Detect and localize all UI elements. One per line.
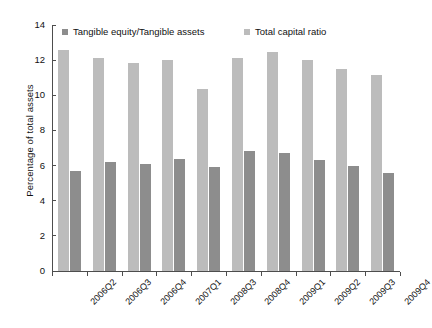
x-tick-mark [400,272,401,276]
bar [244,151,255,271]
x-tick-mark [365,272,366,276]
x-tick-mark [191,272,192,276]
y-tick-label: 10 [0,88,45,101]
x-tick-label: 2008Q4 [263,277,293,307]
bar [267,52,278,271]
y-tick-mark [52,130,56,131]
x-tick-mark [296,272,297,276]
x-tick-label: 2006Q3 [124,277,154,307]
bar [70,171,81,271]
bar [279,153,290,271]
bar [371,75,382,271]
x-tick-mark [156,272,157,276]
y-tick-label: 12 [0,53,45,66]
bar [105,162,116,271]
y-tick-mark [52,200,56,201]
x-tick-mark [330,272,331,276]
x-tick-label: 2009Q2 [332,277,362,307]
y-tick-label: 14 [0,18,45,31]
x-tick-label: 2009Q4 [402,277,432,307]
y-tick-mark [52,165,56,166]
bar [314,160,325,271]
bar [383,173,394,271]
x-tick-label: 2006Q2 [89,277,119,307]
x-tick-label: 2007Q1 [193,277,223,307]
y-tick-label: 0 [0,264,45,277]
x-tick-mark [87,272,88,276]
bar [128,63,139,271]
y-tick-mark [52,95,56,96]
y-tick-mark [52,235,56,236]
bar [93,58,104,271]
bar [162,60,173,271]
bar [209,167,220,271]
bar [140,164,151,271]
x-tick-mark [52,272,53,276]
y-tick-label: 2 [0,229,45,242]
y-tick-label: 4 [0,194,45,207]
bar [174,159,185,271]
x-tick-label: 2009Q1 [298,277,328,307]
x-tick-mark [261,272,262,276]
y-tick-label: 6 [0,159,45,172]
plot-area: 02468101214 [52,25,400,271]
y-tick-label: 8 [0,123,45,136]
x-tick-mark [226,272,227,276]
x-tick-label: 2009Q3 [367,277,397,307]
x-tick-mark [122,272,123,276]
bar [58,50,69,271]
bar [232,58,243,271]
y-tick-mark [52,60,56,61]
bar [302,60,313,271]
x-tick-label: 2008Q3 [228,277,258,307]
bar [348,166,359,271]
y-tick-mark [52,25,56,26]
bar [197,89,208,271]
bar [336,69,347,271]
x-tick-label: 2006Q4 [158,277,188,307]
